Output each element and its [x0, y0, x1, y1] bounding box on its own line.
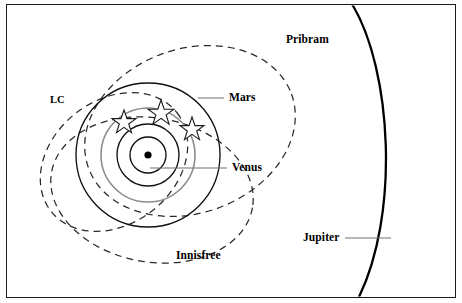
sun-marker: [144, 151, 151, 158]
label-mars: Mars: [229, 91, 256, 103]
orbital-diagram-figure: Pribram Mars LC Venus Innisfree Jupiter: [0, 0, 462, 303]
label-jupiter: Jupiter: [303, 231, 339, 243]
diagram-canvas: [0, 0, 462, 303]
orbit-jupiter: [352, 4, 386, 299]
star-marker-1: [112, 110, 136, 133]
star-marker-2: [148, 100, 174, 124]
label-innisfree: Innisfree: [176, 249, 221, 261]
star-marker-3: [180, 117, 204, 140]
orbit-innisfree: [39, 101, 265, 278]
label-pribram: Pribram: [286, 33, 329, 45]
label-lc: LC: [50, 94, 65, 105]
label-venus: Venus: [232, 161, 262, 173]
